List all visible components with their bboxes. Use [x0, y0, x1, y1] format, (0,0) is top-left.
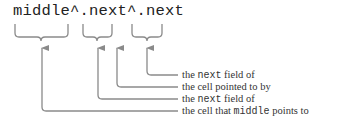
arrow-next-1	[98, 48, 178, 99]
arrow-middle	[42, 48, 178, 111]
brace-next-2	[132, 24, 162, 41]
brace-middle	[15, 24, 68, 41]
annotation-cell-pointed-to: the cell pointed to by	[182, 81, 271, 93]
brace-next-1	[83, 24, 112, 41]
annotation-cell-middle-points-to: the cell that middle points to	[182, 105, 309, 118]
arrow-next-2	[147, 48, 178, 75]
